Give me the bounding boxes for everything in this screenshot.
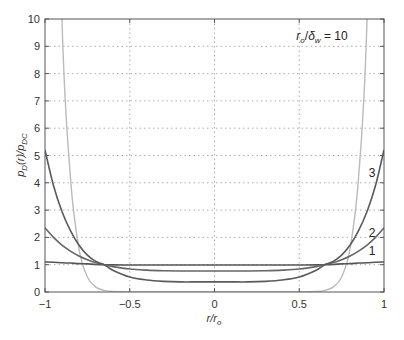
y-tick-label: 4 xyxy=(34,177,40,189)
curve-label-2: 2 xyxy=(369,226,376,240)
x-axis-label: r/ro xyxy=(207,312,222,327)
y-axis-label: pD(r)/pDC xyxy=(14,133,29,178)
y-tick-label: 0 xyxy=(34,286,40,298)
x-tick-label: −0.5 xyxy=(119,298,141,310)
x-tick-label: 0.5 xyxy=(292,298,307,310)
y-tick-label: 1 xyxy=(34,259,40,271)
x-tick-label: 1 xyxy=(381,298,387,310)
y-tick-label: 7 xyxy=(34,95,40,107)
y-tick-label: 10 xyxy=(28,13,40,25)
curve-label-1: 1 xyxy=(369,244,376,258)
y-tick-label: 8 xyxy=(34,68,40,80)
y-tick-label: 2 xyxy=(34,231,40,243)
inline-labels: 321 xyxy=(369,166,376,258)
grid-lines xyxy=(45,19,384,292)
annotation-ratio: ro/δw = 10 xyxy=(296,29,348,45)
curve-label-3: 3 xyxy=(369,166,376,180)
y-tick-label: 5 xyxy=(34,150,40,162)
y-tick-label: 6 xyxy=(34,122,40,134)
line-chart: −1−0.500.51012345678910 321 ro/δw = 10 r… xyxy=(0,0,404,340)
y-tick-label: 3 xyxy=(34,204,40,216)
x-tick-label: −1 xyxy=(39,298,52,310)
y-tick-label: 9 xyxy=(34,40,40,52)
x-tick-label: 0 xyxy=(211,298,217,310)
